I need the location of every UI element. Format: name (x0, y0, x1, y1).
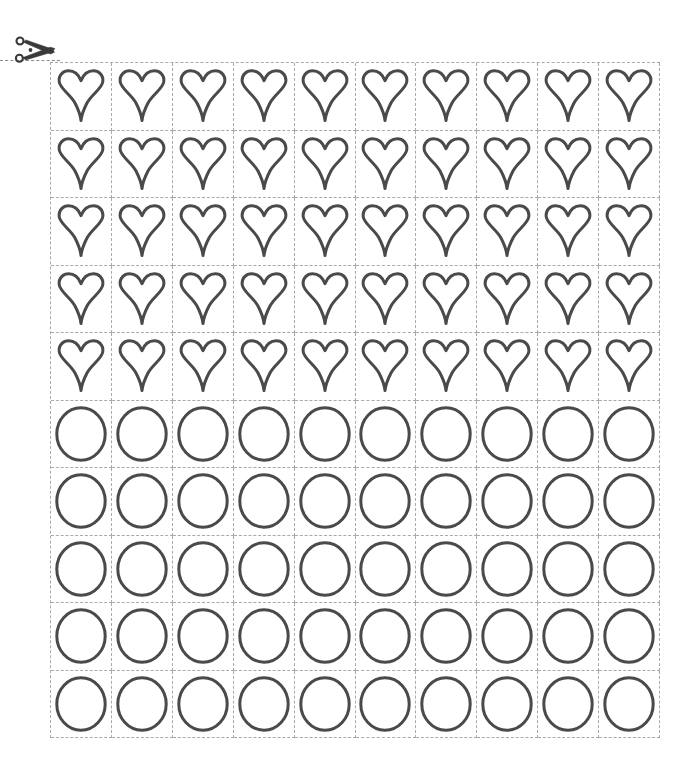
circle-shape-icon (299, 608, 351, 664)
heart-shape-icon (360, 339, 410, 393)
circle-shape-icon (420, 608, 472, 664)
cutout-cell-heart (477, 63, 538, 131)
heart-shape-icon (117, 69, 167, 123)
scissors-icon (10, 36, 56, 64)
cutout-cell-circle (477, 671, 538, 739)
cutout-cell-heart (112, 198, 173, 266)
worksheet-page (0, 0, 696, 775)
cutout-cell-heart (416, 198, 477, 266)
cutout-cell-heart (234, 266, 295, 334)
cutout-cell-circle (356, 603, 417, 671)
cutout-cell-circle (173, 671, 234, 739)
cutout-cell-heart (416, 333, 477, 401)
cutout-cell-circle (356, 671, 417, 739)
heart-shape-icon (178, 339, 228, 393)
circle-shape-icon (481, 541, 533, 597)
circle-shape-icon (55, 473, 107, 529)
cutout-cell-heart (295, 131, 356, 199)
cutout-cell-circle (599, 401, 660, 469)
cutout-cell-circle (599, 671, 660, 739)
cutout-cell-circle (295, 468, 356, 536)
circle-shape-icon (603, 473, 655, 529)
heart-shape-icon (56, 272, 106, 326)
heart-shape-icon (56, 339, 106, 393)
cutout-cell-heart (295, 266, 356, 334)
cutout-cell-heart (356, 63, 417, 131)
circle-shape-icon (481, 473, 533, 529)
cutout-cell-circle (295, 603, 356, 671)
cutout-cell-heart (51, 131, 112, 199)
circle-shape-icon (359, 608, 411, 664)
circle-shape-icon (603, 541, 655, 597)
heart-shape-icon (239, 339, 289, 393)
cutout-cell-heart (295, 63, 356, 131)
cutout-cell-circle (356, 536, 417, 604)
heart-shape-icon (482, 69, 532, 123)
cutout-cell-heart (599, 333, 660, 401)
circle-shape-icon (359, 541, 411, 597)
cutout-cell-heart (356, 266, 417, 334)
circle-shape-icon (238, 608, 290, 664)
circle-shape-icon (177, 406, 229, 462)
cutout-cell-heart (599, 198, 660, 266)
circle-shape-icon (55, 608, 107, 664)
heart-shape-icon (482, 204, 532, 258)
cutout-cell-circle (112, 671, 173, 739)
circle-shape-icon (238, 676, 290, 732)
cutout-cell-heart (538, 266, 599, 334)
cutout-cell-heart (234, 63, 295, 131)
cutout-cell-circle (112, 603, 173, 671)
cutout-cell-heart (173, 266, 234, 334)
heart-shape-icon (117, 272, 167, 326)
cutout-cell-heart (599, 131, 660, 199)
circle-shape-icon (420, 676, 472, 732)
cutout-cell-circle (599, 603, 660, 671)
cutout-cell-circle (295, 536, 356, 604)
circle-shape-icon (177, 541, 229, 597)
circle-shape-icon (603, 406, 655, 462)
cutout-cell-heart (173, 131, 234, 199)
cutout-cell-heart (416, 63, 477, 131)
circle-shape-icon (481, 676, 533, 732)
cutout-cell-heart (538, 198, 599, 266)
cutout-cell-circle (538, 468, 599, 536)
heart-shape-icon (239, 137, 289, 191)
heart-shape-icon (360, 204, 410, 258)
circle-shape-icon (603, 676, 655, 732)
cutout-cell-heart (112, 266, 173, 334)
circle-shape-icon (116, 541, 168, 597)
heart-shape-icon (239, 272, 289, 326)
heart-shape-icon (300, 272, 350, 326)
circle-shape-icon (299, 541, 351, 597)
heart-shape-icon (421, 69, 471, 123)
cutout-cell-circle (416, 603, 477, 671)
heart-shape-icon (543, 137, 593, 191)
cutout-cell-circle (599, 468, 660, 536)
heart-shape-icon (178, 272, 228, 326)
heart-shape-icon (421, 204, 471, 258)
heart-shape-icon (56, 204, 106, 258)
circle-shape-icon (481, 406, 533, 462)
cutout-cell-heart (356, 131, 417, 199)
circle-shape-icon (603, 608, 655, 664)
cutout-shapes-grid (50, 62, 660, 738)
heart-shape-icon (56, 69, 106, 123)
cutout-cell-heart (51, 198, 112, 266)
circle-shape-icon (542, 541, 594, 597)
circle-shape-icon (299, 406, 351, 462)
cutout-cell-heart (416, 131, 477, 199)
cutout-cell-circle (538, 603, 599, 671)
circle-shape-icon (177, 676, 229, 732)
circle-shape-icon (55, 541, 107, 597)
cutout-cell-heart (477, 131, 538, 199)
cutout-cell-heart (538, 333, 599, 401)
cutout-cell-circle (477, 468, 538, 536)
cutout-cell-heart (234, 131, 295, 199)
cutout-cell-circle (51, 671, 112, 739)
cutout-cell-circle (234, 468, 295, 536)
cutout-cell-circle (416, 536, 477, 604)
cutout-cell-circle (477, 603, 538, 671)
cutout-cell-circle (173, 603, 234, 671)
heart-shape-icon (543, 339, 593, 393)
cutout-cell-circle (234, 536, 295, 604)
